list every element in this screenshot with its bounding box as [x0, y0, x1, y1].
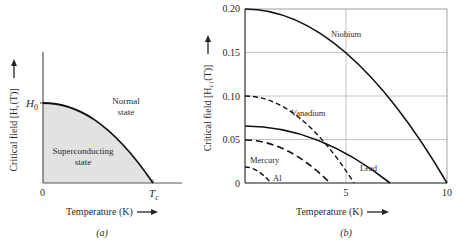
x-axis-arrow-icon-b [367, 209, 389, 215]
origin-label: 0 [40, 187, 45, 198]
superconducting-state-label-1: Superconducting [53, 146, 114, 156]
y-axis-arrow-icon [11, 59, 17, 78]
x-tick-10: 10 [442, 187, 452, 198]
lead-label: Lead [360, 163, 378, 173]
mercury-label: Mercury [250, 155, 280, 165]
panel-a: H0 0 Tc Normal state Superconducting sta… [8, 52, 182, 239]
x-axis-arrow-icon [137, 209, 158, 215]
normal-state-label-1: Normal [112, 96, 140, 106]
superconducting-region [43, 103, 153, 183]
vanadium-label: Vanadium [291, 108, 326, 118]
y-tick-0.15: 0.15 [223, 47, 241, 58]
y-tick-0.20: 0.20 [223, 3, 241, 14]
niobium-label: Niobium [331, 29, 362, 39]
superconducting-state-label-2: state [75, 157, 92, 167]
x-axis-label-a: Temperature (K) [66, 206, 133, 218]
panel-b: 0.20 0.15 0.10 0.05 0 5 10 Niobium Vanad… [202, 3, 452, 239]
al-label: Al [273, 173, 282, 183]
normal-state-label-2: state [118, 107, 135, 117]
x-axis-label-b: Temperature (K) [296, 206, 363, 218]
tc-label: Tc [149, 187, 159, 202]
h0-label: H0 [25, 97, 38, 112]
y-tick-0.10: 0.10 [223, 91, 241, 102]
al-curve [245, 167, 271, 183]
figure: H0 0 Tc Normal state Superconducting sta… [0, 0, 459, 246]
y-axis-arrow-icon-b [205, 35, 211, 54]
y-tick-0.05: 0.05 [223, 134, 241, 145]
y-axis-label-a: Critical field [Hc(T)] [8, 88, 21, 171]
caption-a: (a) [96, 227, 108, 239]
caption-b: (b) [340, 227, 352, 239]
y-axis-label-b: Critical field [Hc1(T)] [202, 65, 215, 152]
x-tick-5: 5 [344, 187, 349, 198]
y-tick-0: 0 [235, 178, 240, 189]
